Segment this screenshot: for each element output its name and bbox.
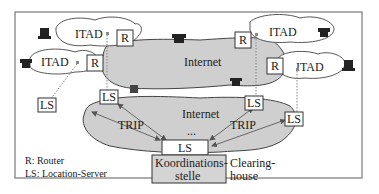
- ls-right: LS: [245, 96, 263, 110]
- itad-label-mid-left: ITAD: [41, 55, 69, 69]
- router-mid-right: R: [267, 58, 283, 74]
- upper-internet-label: Internet: [184, 55, 222, 69]
- gateway-dot: [296, 68, 299, 71]
- itad-label-top-right: ITAD: [269, 25, 297, 39]
- phone-icon: [172, 34, 186, 43]
- ls-far-right: LS: [285, 112, 303, 126]
- router-mid-left: R: [87, 55, 103, 71]
- trip-label-left: TRIP: [118, 118, 144, 132]
- ls-far-left: LS: [38, 98, 56, 112]
- itad-label-top-left: ITAD: [75, 27, 103, 41]
- svg-text:LS: LS: [40, 98, 54, 112]
- ls-left: LS: [100, 90, 118, 104]
- svg-text:LS: LS: [247, 96, 261, 110]
- gateway-dot: [76, 61, 79, 64]
- network-diagram: Internet Internet ... ITAD ITAD ITAD ITA…: [0, 0, 379, 194]
- svg-text:R: R: [239, 33, 247, 47]
- router-top-right: R: [235, 32, 251, 48]
- svg-text:R: R: [91, 56, 99, 70]
- svg-text:R: R: [271, 59, 279, 73]
- lower-internet-label: Internet: [182, 107, 220, 121]
- ls-center: LS: [162, 140, 208, 155]
- itad-label-mid-right: ITAD: [296, 60, 324, 74]
- legend-location-server: LS: Location-Server: [25, 168, 108, 179]
- phone-icon: [130, 85, 138, 93]
- svg-text:LS: LS: [178, 141, 192, 155]
- svg-text:Koordinations-: Koordinations-: [155, 156, 228, 170]
- gateway-dot: [255, 33, 258, 36]
- trip-label-right: TRIP: [230, 118, 256, 132]
- gateway-dot: [106, 32, 109, 35]
- svg-text:stelle: stelle: [175, 169, 200, 183]
- svg-text:LS: LS: [102, 90, 116, 104]
- legend-router: R: Router: [25, 155, 65, 166]
- svg-text:R: R: [121, 31, 129, 45]
- ellipsis-label: ...: [187, 124, 196, 138]
- clearinghouse-box: Koordinations- stelle: [152, 155, 228, 183]
- clearinghouse-caption-1: Clearing-: [230, 156, 275, 170]
- clearinghouse-caption-2: house: [230, 169, 258, 183]
- router-top-left: R: [117, 30, 133, 46]
- svg-text:LS: LS: [287, 112, 301, 126]
